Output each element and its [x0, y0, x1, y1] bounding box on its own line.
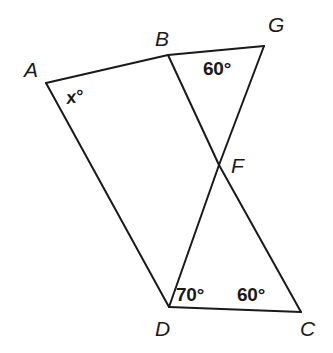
vertex-label-B: B	[155, 28, 169, 49]
angle-label-at-G: 60°	[203, 59, 231, 78]
angle-label-at-A: x°	[65, 87, 84, 107]
vertex-label-G: G	[268, 14, 284, 35]
geometry-figure: A B G F D C x° 60° 70° 60°	[0, 0, 333, 353]
segment-A-G	[46, 46, 264, 83]
angle-label-at-D: 70°	[176, 285, 204, 304]
figure-line-group	[46, 46, 301, 312]
segment-G-D	[169, 46, 264, 307]
figure-canvas	[0, 0, 333, 353]
vertex-label-A: A	[24, 59, 38, 80]
segment-B-C	[168, 55, 301, 312]
segment-D-C	[169, 307, 301, 312]
angle-label-at-C: 60°	[237, 285, 265, 304]
vertex-label-C: C	[300, 318, 315, 339]
segment-A-D	[46, 83, 169, 307]
vertex-label-F: F	[231, 155, 244, 176]
vertex-label-D: D	[155, 318, 170, 339]
